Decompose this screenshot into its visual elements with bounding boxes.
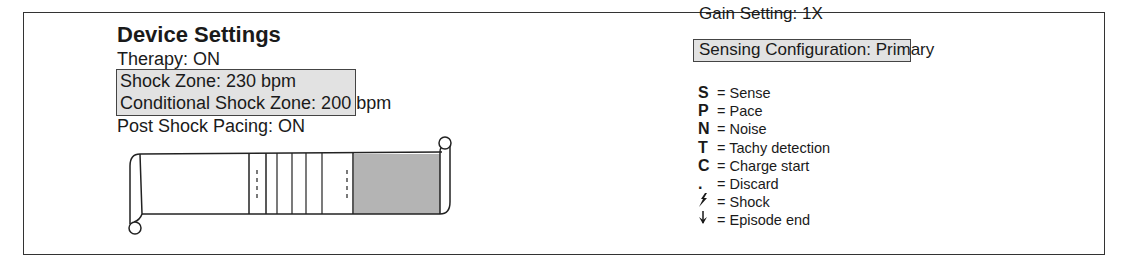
shock-zone-setting: Shock Zone: 230 bpm [120,71,296,92]
discard-dot-icon: . [698,175,713,192]
legend-item-sense: S = Sense [698,84,830,102]
legend-item-tachy-detection: T = Tachy detection [698,139,830,157]
legend-item-noise: N = Noise [698,120,830,138]
legend: S = Sense P = Pace N = Noise T = Tachy d… [698,84,830,230]
down-arrow-icon [698,211,713,228]
sensing-configuration: Sensing Configuration: Primary [699,40,934,60]
legend-item-pace: P = Pace [698,102,830,120]
therapy-setting: Therapy: ON [117,49,220,70]
legend-item-discard: . = Discard [698,175,830,193]
legend-item-shock: = Shock [698,193,830,211]
panel-title: Device Settings [117,22,281,48]
conditional-shock-zone-setting: Conditional Shock Zone: 200 bpm [120,93,391,114]
gain-setting: Gain Setting: 1X [699,4,823,24]
legend-item-episode-end: = Episode end [698,211,830,229]
legend-item-charge-start: C = Charge start [698,157,830,175]
lightning-bolt-icon [698,193,713,210]
rhythm-strip-scroll-icon [120,130,460,240]
